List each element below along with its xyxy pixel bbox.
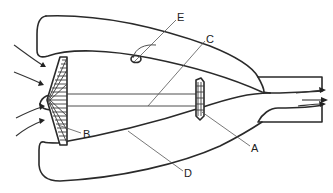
turbofan-diagram: E C B D A xyxy=(0,0,333,193)
lower-nacelle-outer xyxy=(258,105,322,122)
label-e: E xyxy=(177,11,184,23)
shaft xyxy=(67,94,196,106)
upper-nacelle xyxy=(37,16,270,93)
fan xyxy=(47,57,67,145)
label-c: C xyxy=(206,33,214,45)
label-b: B xyxy=(83,128,90,140)
label-d: D xyxy=(184,167,192,179)
upper-nacelle-outer xyxy=(46,16,322,93)
fuel-injector xyxy=(131,45,156,63)
leader-a xyxy=(202,112,250,146)
intake-arrows xyxy=(14,45,46,136)
label-a: A xyxy=(251,142,259,154)
turbine xyxy=(196,78,204,120)
leader-d xyxy=(128,131,183,171)
exhaust-arrows xyxy=(296,87,328,107)
